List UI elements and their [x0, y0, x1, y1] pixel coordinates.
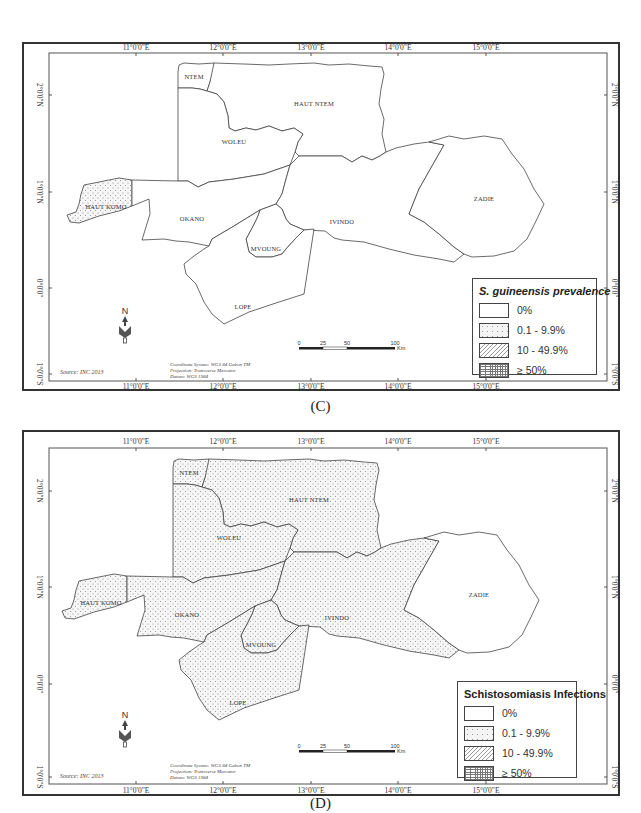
svg-text:N: N [122, 306, 129, 316]
map-panel-d: 11°0'0"E 12°0'0"E 13°0'0"E 14°0'0"E 15°0… [22, 430, 620, 796]
label-ntem: NTEM [184, 73, 203, 80]
label-haut-komo: HAUT KOMO [80, 599, 121, 606]
svg-text:15°0'0"E: 15°0'0"E [473, 44, 500, 52]
swatch-grid [479, 363, 509, 378]
svg-text:50: 50 [344, 743, 350, 749]
label-ivindo: IVINDO [330, 218, 354, 225]
region-haut-komo [62, 574, 127, 619]
svg-text:13°0'0"E: 13°0'0"E [298, 437, 325, 446]
svg-text:11°0'0"E: 11°0'0"E [123, 382, 150, 391]
svg-text:1°0'0"S: 1°0'0"S [610, 766, 619, 789]
legend-c: S. guineensis prevalence 0% 0.1 - 9.9% 1… [472, 278, 597, 375]
svg-text:14°0'0"E: 14°0'0"E [385, 437, 412, 446]
svg-text:2°0'0"N: 2°0'0"N [35, 83, 44, 108]
svg-text:Coordinate System: WGS 84 Gabo: Coordinate System: WGS 84 Gabon TM [170, 362, 251, 367]
longitude-labels-top: 11°0'0"E 12°0'0"E 13°0'0"E 14°0'0"E 15°0… [123, 44, 500, 52]
longitude-labels-bottom: 11°0'0"E 12°0'0"E 13°0'0"E 14°0'0"E 15°0… [123, 378, 500, 391]
svg-text:Datum: WGS 1984: Datum: WGS 1984 [169, 775, 209, 780]
caption-d: (D) [0, 795, 641, 812]
legend-item-1: 0.1 - 9.9% [458, 723, 576, 743]
svg-text:1°0'0"N: 1°0'0"N [35, 180, 44, 205]
latitude-labels-right: 2°0'0"N 1°0'0"N 0°0'0" 1°0'0"S [604, 479, 619, 788]
svg-text:11°0'0"E: 11°0'0"E [123, 44, 150, 52]
svg-text:14°0'0"E: 14°0'0"E [385, 44, 412, 52]
svg-text:1°0'0"N: 1°0'0"N [35, 575, 44, 600]
svg-text:2°0'0"N: 2°0'0"N [610, 479, 619, 504]
longitude-labels-top: 11°0'0"E 12°0'0"E 13°0'0"E 14°0'0"E 15°0… [123, 437, 500, 451]
svg-text:1°0'0"S: 1°0'0"S [35, 363, 44, 386]
label-woleu: WOLEU [222, 138, 247, 145]
svg-text:15°0'0"E: 15°0'0"E [473, 382, 500, 391]
svg-text:Km: Km [397, 345, 406, 351]
svg-text:12°0'0"E: 12°0'0"E [210, 44, 237, 52]
svg-text:12°0'0"E: 12°0'0"E [210, 786, 237, 795]
svg-text:0°0'0": 0°0'0" [35, 675, 44, 694]
swatch-dots [479, 323, 509, 338]
legend-item-2: 10 - 49.9% [473, 340, 596, 360]
swatch-hatch [479, 343, 509, 358]
label-mvoung: MVOUNG [246, 641, 277, 648]
label-okano: OKANO [175, 611, 200, 618]
svg-text:12°0'0"E: 12°0'0"E [210, 382, 237, 391]
svg-text:11°0'0"E: 11°0'0"E [123, 437, 150, 446]
region-haut-komo [67, 178, 132, 223]
svg-text:50: 50 [344, 340, 350, 346]
scale-bar: 0 25 50 100 Km [297, 743, 405, 754]
legend-item-3: ≥ 50% [473, 360, 596, 380]
svg-text:Coordinate System: WGS 84 Gabo: Coordinate System: WGS 84 Gabon TM [170, 763, 251, 768]
scale-bar: 0 25 50 100 Km [297, 340, 405, 351]
svg-text:0: 0 [297, 340, 300, 346]
legend-item-2: 10 - 49.9% [458, 743, 576, 763]
svg-text:0°0'0": 0°0'0" [35, 279, 44, 298]
svg-text:14°0'0"E: 14°0'0"E [385, 786, 412, 795]
north-arrow-icon: N [119, 306, 131, 343]
source-text: Source: INC 2013 [60, 773, 103, 779]
label-mvoung: MVOUNG [251, 245, 282, 252]
label-okano: OKANO [180, 215, 205, 222]
svg-text:2°0'0"N: 2°0'0"N [35, 479, 44, 504]
svg-text:13°0'0"E: 13°0'0"E [298, 786, 325, 795]
svg-text:12°0'0"E: 12°0'0"E [210, 437, 237, 446]
swatch-hatch [464, 746, 494, 761]
svg-text:2°0'0"N: 2°0'0"N [610, 83, 619, 108]
label-haut-ntem: HAUT NTEM [294, 100, 334, 107]
label-haut-ntem: HAUT NTEM [289, 496, 329, 503]
svg-text:15°0'0"E: 15°0'0"E [473, 786, 500, 795]
swatch-grid [464, 766, 494, 781]
svg-text:Projection: Transverse Mercato: Projection: Transverse Mercator [169, 769, 236, 774]
svg-text:15°0'0"E: 15°0'0"E [473, 437, 500, 446]
legend-item-0: 0% [458, 703, 576, 723]
swatch-none [479, 303, 509, 318]
label-ivindo: IVINDO [325, 614, 349, 621]
legend-item-3: ≥ 50% [458, 763, 576, 783]
svg-text:Projection: Transverse Mercato: Projection: Transverse Mercator [169, 368, 236, 373]
label-lope: LOPE [234, 303, 251, 310]
legend-title: S. guineensis prevalence [473, 279, 596, 300]
label-haut-komo: HAUT KOMO [85, 203, 126, 210]
map-info: Coordinate System: WGS 84 Gabon TM Proje… [169, 763, 251, 780]
source-text: Source: INC 2013 [60, 369, 103, 375]
label-woleu: WOLEU [217, 534, 242, 541]
label-ntem: NTEM [179, 469, 198, 476]
map-info: Coordinate System: WGS 84 Gabon TM Proje… [169, 362, 251, 379]
svg-text:1°0'0"N: 1°0'0"N [610, 180, 619, 205]
svg-text:Datum: WGS 1984: Datum: WGS 1984 [169, 374, 209, 379]
legend-item-0: 0% [473, 300, 596, 320]
label-lope: LOPE [229, 699, 246, 706]
svg-text:0: 0 [297, 743, 300, 749]
svg-text:11°0'0"E: 11°0'0"E [123, 786, 150, 795]
svg-text:13°0'0"E: 13°0'0"E [298, 382, 325, 391]
longitude-labels-bottom: 11°0'0"E 12°0'0"E 13°0'0"E 14°0'0"E 15°0… [123, 781, 500, 795]
svg-text:0°0'0": 0°0'0" [610, 675, 619, 694]
caption-c: (C) [0, 398, 641, 415]
svg-text:1°0'0"N: 1°0'0"N [610, 575, 619, 600]
label-zadie: ZADIE [469, 591, 490, 598]
svg-text:Km: Km [397, 748, 406, 754]
map-panel-c: 11°0'0"E 12°0'0"E 13°0'0"E 14°0'0"E 15°0… [22, 42, 620, 391]
north-arrow-icon: N [119, 710, 131, 747]
swatch-none [464, 706, 494, 721]
swatch-dots [464, 726, 494, 741]
svg-text:1°0'0"S: 1°0'0"S [610, 363, 619, 386]
latitude-labels-right: 2°0'0"N 1°0'0"N 0°0'0" 1°0'0"S [604, 83, 619, 385]
svg-text:25: 25 [320, 340, 326, 346]
